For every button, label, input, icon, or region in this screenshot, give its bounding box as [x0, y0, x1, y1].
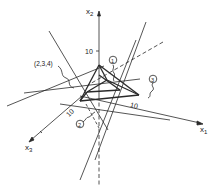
x2-tick-label: 10: [85, 48, 93, 55]
x2-arrowhead: [98, 11, 101, 16]
x3-axis-label: x3: [25, 143, 33, 153]
circle-label-3: 3: [151, 77, 154, 83]
leader-circle-1: [113, 65, 115, 81]
3d-constraint-diagram: x2 10 x1 10 x3 10 (2,3,4) 1 2 3: [0, 0, 212, 187]
x3-axis: [31, 96, 82, 140]
leader-circle-3: [148, 83, 153, 98]
x2-axis-label: x2: [86, 7, 94, 17]
circle-label-1: 1: [111, 58, 114, 64]
point-label: (2,3,4): [34, 60, 53, 68]
leader-circle-2: [83, 112, 95, 122]
plane-line-e: [80, 40, 136, 180]
x1-tick-label: 10: [129, 101, 138, 109]
x1-axis-label: x1: [200, 125, 208, 135]
polytope-edge: [80, 65, 99, 101]
circle-label-2: 2: [78, 122, 81, 128]
dashed-line-short: [86, 104, 99, 128]
